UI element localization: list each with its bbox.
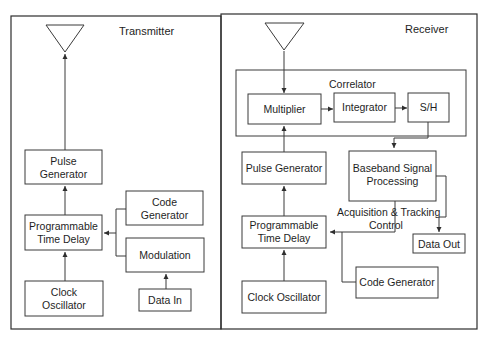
tx-ptd-label-1: Programmable: [29, 220, 98, 232]
rx-pulse-generator-label: Pulse Generator: [246, 162, 323, 174]
tx-data-in-block: Data In: [139, 289, 191, 311]
rx-ptd-label-1: Programmable: [250, 219, 319, 231]
transmitter-title: Transmitter: [119, 25, 175, 37]
tx-modulation-label: Modulation: [139, 249, 191, 261]
tx-clock-label-2: Oscillator: [42, 299, 86, 311]
rx-code-generator-block: Code Generator: [356, 267, 438, 298]
rx-pulse-generator-block: Pulse Generator: [242, 152, 326, 184]
rx-wire-sh-to-baseband: [394, 122, 428, 148]
tx-modulation-block: Modulation: [126, 238, 204, 272]
tx-clock-label-1: Clock: [51, 286, 78, 298]
tx-code-generator-label-1: Code: [152, 196, 177, 208]
tx-code-generator-block: Code Generator: [126, 191, 203, 225]
rx-clock-label: Clock Oscillator: [248, 291, 321, 303]
tx-ptd-label-2: Time Delay: [37, 233, 90, 245]
rx-clock-oscillator-block: Clock Oscillator: [242, 281, 326, 313]
tx-data-in-label: Data In: [148, 294, 182, 306]
rx-code-generator-label: Code Generator: [359, 276, 435, 288]
tx-programmable-time-delay-block: Programmable Time Delay: [25, 215, 102, 250]
rx-integrator-label: Integrator: [342, 101, 387, 113]
rx-ptd-label-2: Time Delay: [258, 232, 311, 244]
rx-multiplier-label: Multiplier: [263, 103, 306, 115]
tx-pulse-generator-label-1: Pulse: [50, 155, 76, 167]
tx-pulse-generator-block: Pulse Generator: [25, 150, 102, 184]
transmitter-antenna-icon: [46, 25, 84, 52]
rx-correlator-title: Correlator: [329, 78, 376, 90]
tx-code-generator-label-2: Generator: [141, 209, 189, 221]
tx-wire-code-modulation-bus: [116, 209, 126, 256]
rx-acq-tracking-label-2: Control: [369, 219, 403, 231]
rx-baseband-signal-processing-block: Baseband Signal Processing: [349, 151, 436, 201]
receiver-title: Receiver: [405, 23, 449, 35]
tx-pulse-generator-label-2: Generator: [40, 168, 88, 180]
rx-wire-baseband-to-dataout: [436, 176, 446, 232]
rx-data-out-label: Data Out: [418, 238, 460, 250]
uwb-block-diagram: Transmitter Pulse Generator Programmable…: [0, 0, 490, 340]
rx-integrator-block: Integrator: [334, 93, 395, 122]
rx-acq-tracking-label-1: Acquisition & Tracking: [337, 206, 440, 218]
rx-wire-codegen-to-delay: [342, 232, 356, 282]
rx-multiplier-block: Multiplier: [248, 94, 321, 124]
tx-clock-oscillator-block: Clock Oscillator: [25, 281, 103, 316]
rx-sample-hold-block: S/H: [408, 93, 449, 122]
rx-sample-hold-label: S/H: [420, 101, 438, 113]
receiver-antenna-icon: [265, 23, 304, 50]
rx-programmable-time-delay-block: Programmable Time Delay: [242, 216, 326, 248]
rx-data-out-block: Data Out: [413, 234, 465, 253]
rx-baseband-label-2: Processing: [367, 175, 419, 187]
rx-baseband-label-1: Baseband Signal: [353, 162, 432, 174]
